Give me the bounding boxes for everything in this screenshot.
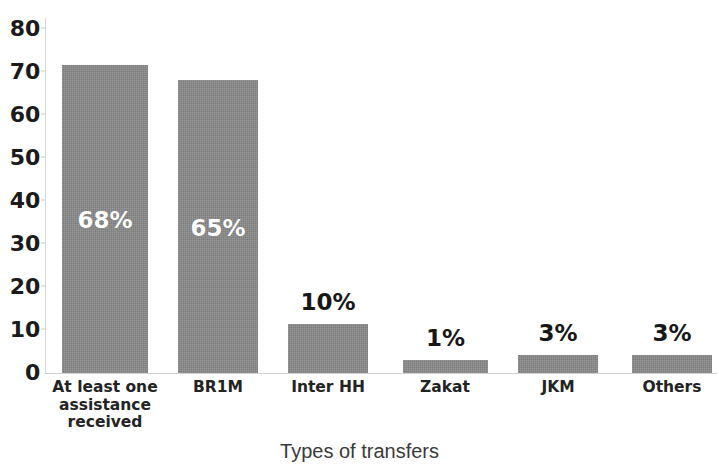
y-axis-tick-label: 60 bbox=[2, 102, 40, 127]
x-axis-category-label-line: Inter HH bbox=[283, 379, 373, 397]
x-axis-category-label: JKM bbox=[513, 379, 603, 397]
x-axis-line bbox=[45, 373, 717, 374]
plot-area: 68% 65% 10% 1% 3% 3% bbox=[46, 18, 717, 373]
x-axis-category-label: Others bbox=[627, 379, 717, 397]
y-axis-tick-label: 70 bbox=[2, 59, 40, 84]
bar-value-label: 3% bbox=[518, 320, 598, 346]
x-axis-category-label: BR1M bbox=[173, 379, 263, 397]
x-axis-category-label: At least one assistance received bbox=[52, 379, 158, 432]
bar-group: 68% bbox=[62, 18, 148, 373]
y-axis-tick-label: 10 bbox=[2, 317, 40, 342]
x-axis-category-label-line: assistance bbox=[52, 397, 158, 415]
x-axis-category-label-line: received bbox=[52, 414, 158, 432]
bar-group: 10% bbox=[288, 18, 368, 373]
x-axis-title: Types of transfers bbox=[0, 440, 719, 463]
bar bbox=[632, 355, 712, 373]
y-axis-tick-label: 20 bbox=[2, 274, 40, 299]
bar-value-label: 1% bbox=[403, 325, 488, 351]
bar-value-label: 68% bbox=[62, 207, 148, 233]
bar-value-label: 3% bbox=[632, 320, 712, 346]
x-axis-category-label-line: BR1M bbox=[173, 379, 263, 397]
y-axis: 80 70 60 50 40 30 20 10 0 bbox=[0, 0, 40, 380]
y-axis-tick-label: 80 bbox=[2, 16, 40, 41]
x-axis-category-labels: At least one assistance received BR1M In… bbox=[46, 379, 717, 441]
bar-chart: 80 70 60 50 40 30 20 10 0 68% 65% 10% bbox=[0, 0, 719, 468]
bar-value-label: 10% bbox=[288, 289, 368, 315]
bar-group: 3% bbox=[518, 18, 598, 373]
bar-group: 65% bbox=[178, 18, 258, 373]
bar bbox=[518, 355, 598, 373]
x-axis-category-label-line: Others bbox=[627, 379, 717, 397]
x-axis-category-label: Zakat bbox=[400, 379, 490, 397]
bar bbox=[288, 324, 368, 373]
y-axis-tick-label: 30 bbox=[2, 231, 40, 256]
bar-group: 1% bbox=[403, 18, 488, 373]
y-axis-tick-label: 50 bbox=[2, 145, 40, 170]
x-axis-category-label: Inter HH bbox=[283, 379, 373, 397]
bar bbox=[403, 360, 488, 373]
x-axis-category-label-line: At least one bbox=[52, 379, 158, 397]
y-axis-tick-label: 40 bbox=[2, 188, 40, 213]
bar-group: 3% bbox=[632, 18, 712, 373]
x-axis-category-label-line: JKM bbox=[513, 379, 603, 397]
x-axis-category-label-line: Zakat bbox=[400, 379, 490, 397]
bar-value-label: 65% bbox=[178, 215, 258, 241]
y-axis-tick-label: 0 bbox=[2, 360, 40, 385]
